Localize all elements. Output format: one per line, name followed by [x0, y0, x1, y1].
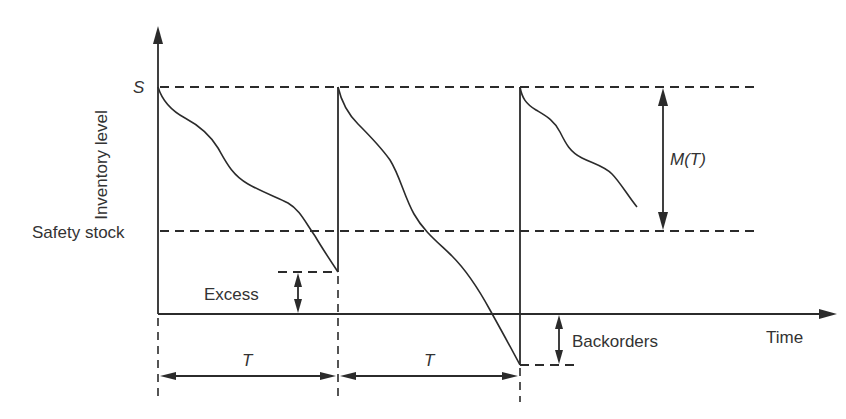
backorders-arrow — [555, 315, 563, 364]
demand-arrow — [658, 88, 668, 230]
inventory-curve-cycle-3 — [520, 87, 637, 207]
inventory-curve-cycle-1 — [158, 87, 338, 272]
arrow-right-icon — [502, 372, 518, 380]
arrow-right-icon — [320, 372, 336, 380]
period-2-label: T — [424, 351, 436, 370]
arrow-down-icon — [555, 350, 563, 364]
y-axis-label: Inventory level — [92, 110, 111, 220]
x-axis — [158, 309, 837, 319]
period-2-arrow — [340, 372, 518, 380]
safety-stock-label: Safety stock — [32, 223, 125, 242]
arrow-left-icon — [160, 372, 176, 380]
inventory-curve-cycle-2 — [338, 87, 520, 365]
period-1-label: T — [242, 351, 254, 370]
demand-label: M(T) — [670, 150, 706, 169]
x-axis-label: Time — [766, 328, 803, 347]
arrow-up-icon — [555, 315, 563, 329]
excess-arrow — [294, 273, 302, 313]
x-axis-arrow-icon — [819, 309, 837, 319]
arrow-down-icon — [294, 299, 302, 313]
s-level-label: S — [133, 78, 145, 97]
arrow-left-icon — [340, 372, 356, 380]
y-axis — [153, 26, 163, 314]
period-1-arrow — [160, 372, 336, 380]
inventory-diagram: Inventory level Time S Safety stock Exce… — [0, 0, 846, 419]
arrow-up-icon — [294, 273, 302, 287]
y-axis-arrow-icon — [153, 26, 163, 44]
backorders-label: Backorders — [572, 332, 658, 351]
excess-label: Excess — [204, 285, 259, 304]
arrow-up-icon — [658, 88, 668, 106]
arrow-down-icon — [658, 212, 668, 230]
